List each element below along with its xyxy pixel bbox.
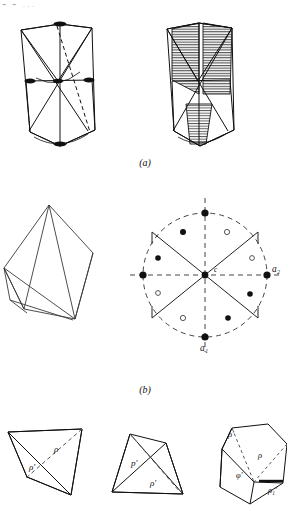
label-rho-2: ρ <box>257 450 262 460</box>
pole-filled-right <box>263 271 270 278</box>
stereogram-center-label: c <box>214 265 218 274</box>
lens-marker-bottom <box>54 141 67 146</box>
caption-b: (b) <box>139 384 151 396</box>
cut-off-header-text: - - ... <box>2 0 36 7</box>
hatched-face-upper-left <box>172 23 199 94</box>
pole-filled-bottom <box>201 333 208 340</box>
stereographic-projection: c a₂ a₁ <box>130 198 281 353</box>
label-rho-prime: ρ' <box>28 462 36 472</box>
label-rho-prime-2: ρ' <box>149 478 157 488</box>
stereogram-axis-label-a2: a₂ <box>272 264 281 274</box>
lens-marker-left <box>25 79 36 84</box>
stereogram-axis-label-a1: a₁ <box>200 343 208 353</box>
bottom-shape-left <box>8 429 82 495</box>
pole-open-mid-right <box>250 256 255 261</box>
lens-marker-top <box>54 21 67 26</box>
pole-filled-bottom-right <box>247 291 253 297</box>
bottom-shape-middle-labels: p' ρ' <box>130 458 157 488</box>
pole-open-lower-left <box>156 291 161 296</box>
label-phi-prime: φ' <box>236 470 243 480</box>
pole-filled-left <box>139 271 146 278</box>
lens-marker-right <box>84 78 95 83</box>
hatched-face-upper-right <box>203 23 232 94</box>
label-rho-prime-3: ρ' <box>227 429 234 439</box>
figure-root: - - ... <box>0 0 287 512</box>
crystal-outline-rhombohedron <box>4 205 93 320</box>
lens-marker-center <box>53 79 63 83</box>
label-p-prime: p' <box>130 458 139 468</box>
crystal-shaded-right <box>167 23 234 146</box>
pole-filled-centre <box>202 272 209 279</box>
label-rho: ρ <box>53 444 59 454</box>
crystal-outline-left <box>21 24 95 146</box>
pole-filled-lower-right <box>225 315 231 321</box>
bottom-shape-middle <box>112 434 183 494</box>
pole-open-bottom-left <box>180 315 185 320</box>
caption-a: (a) <box>139 157 151 169</box>
pole-filled-upper-left <box>180 229 186 235</box>
pole-filled-top <box>201 209 208 216</box>
pole-filled-mid-left <box>155 255 161 261</box>
figure-canvas: (a) <box>0 0 287 512</box>
label-rho-1-prime: ρ₁' <box>267 485 277 495</box>
pole-open-upper-right <box>224 229 229 234</box>
